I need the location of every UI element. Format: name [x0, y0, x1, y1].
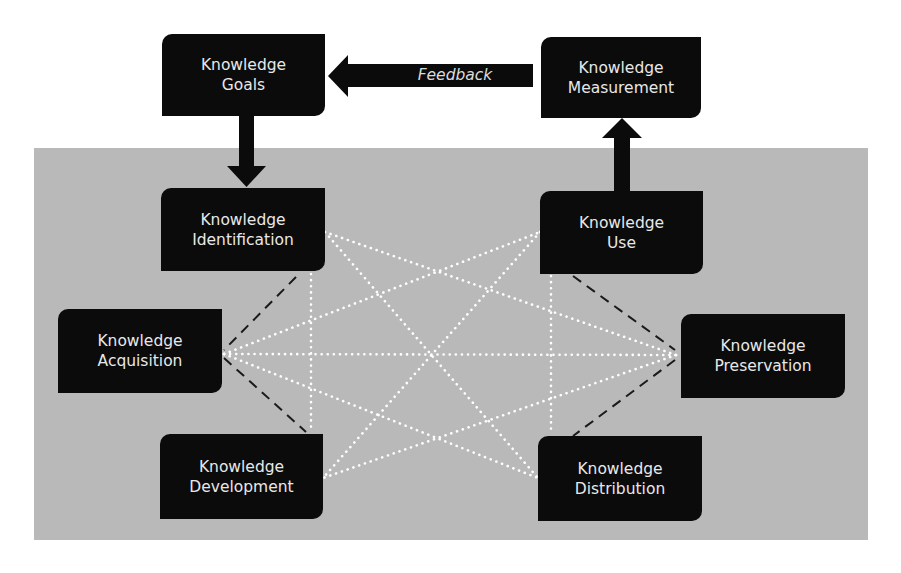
box-knowledge-goals[interactable]: Knowledge Goals — [162, 34, 325, 116]
box-label-line2: Use — [607, 233, 636, 253]
box-knowledge-acquisition[interactable]: Knowledge Acquisition — [58, 309, 222, 393]
arrow-up-use-to-measurement — [602, 118, 642, 191]
connector-lines — [0, 0, 901, 573]
feedback-label: Feedback — [395, 65, 515, 85]
box-label-line1: Knowledge — [579, 213, 664, 233]
box-label-line2: Goals — [222, 75, 265, 95]
box-label-line1: Knowledge — [97, 331, 182, 351]
box-label-line1: Knowledge — [199, 457, 284, 477]
box-label-line2: Distribution — [575, 479, 665, 499]
box-label-line1: Knowledge — [201, 55, 286, 75]
box-label-line2: Identification — [192, 230, 294, 250]
box-label-line1: Knowledge — [577, 459, 662, 479]
box-knowledge-use[interactable]: Knowledge Use — [540, 191, 703, 274]
box-knowledge-development[interactable]: Knowledge Development — [160, 434, 323, 519]
box-knowledge-identification[interactable]: Knowledge Identification — [161, 188, 325, 271]
arrow-down-goals-to-identification — [227, 116, 266, 187]
box-knowledge-distribution[interactable]: Knowledge Distribution — [538, 436, 702, 521]
box-label-line1: Knowledge — [200, 210, 285, 230]
box-label-line2: Measurement — [568, 78, 674, 98]
box-label-line1: Knowledge — [720, 336, 805, 356]
box-label-line2: Preservation — [715, 356, 812, 376]
box-knowledge-preservation[interactable]: Knowledge Preservation — [681, 314, 845, 398]
dashed-connectors — [224, 276, 675, 436]
box-label-line1: Knowledge — [578, 58, 663, 78]
box-label-line2: Acquisition — [98, 351, 183, 371]
box-label-line2: Development — [189, 477, 293, 497]
box-knowledge-measurement[interactable]: Knowledge Measurement — [541, 37, 701, 118]
